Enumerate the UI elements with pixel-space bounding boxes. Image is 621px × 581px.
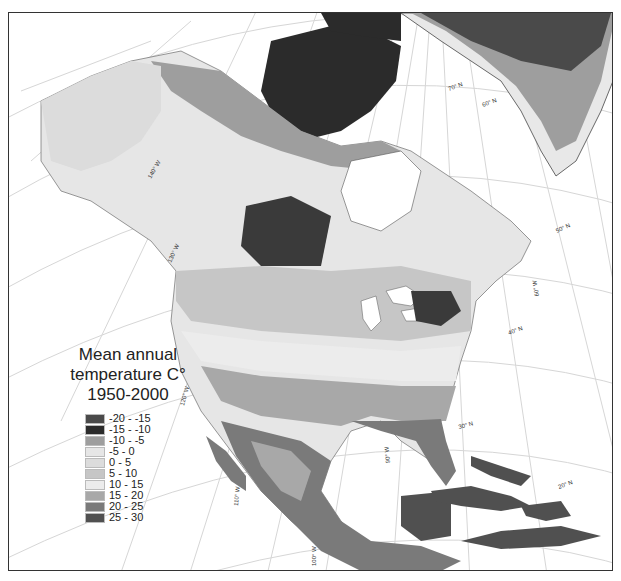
label-110w: 110° W xyxy=(233,486,241,506)
caribbean-islands xyxy=(431,456,601,549)
label-100w: 100° W xyxy=(311,546,317,566)
legend-swatch xyxy=(85,491,105,501)
legend-items: -20 - -15 -15 - -10 -10 - -5 -5 - 0 0 - … xyxy=(85,413,193,523)
legend-swatch xyxy=(85,436,105,446)
legend-label: 25 - 30 xyxy=(109,512,143,523)
label-30n: 30° N xyxy=(458,420,474,430)
legend-title: Mean annual temperature C° 1950-2000 xyxy=(63,345,193,405)
greenland xyxy=(401,13,613,176)
legend-swatch xyxy=(85,480,105,490)
legend-swatch xyxy=(85,513,105,523)
label-90w: 90° W xyxy=(384,446,391,463)
label-50n: 50° N xyxy=(555,222,571,234)
label-20n: 20° N xyxy=(557,479,573,490)
legend-swatch xyxy=(85,414,105,424)
legend-item: -10 - -5 xyxy=(85,435,193,446)
label-60w: 60° W xyxy=(531,279,540,297)
legend-swatch xyxy=(85,458,105,468)
label-60n: 60° N xyxy=(481,97,497,108)
legend-item: -5 - 0 xyxy=(85,446,193,457)
legend-swatch xyxy=(85,425,105,435)
legend-item: 25 - 30 xyxy=(85,512,193,523)
legend: Mean annual temperature C° 1950-2000 -20… xyxy=(63,345,193,523)
map-frame: 70° N 60° N 50° N 40° N 30° N 20° N 140°… xyxy=(8,12,613,571)
legend-swatch xyxy=(85,447,105,457)
legend-title-line3: 1950-2000 xyxy=(63,385,193,405)
legend-swatch xyxy=(85,502,105,512)
legend-swatch xyxy=(85,469,105,479)
legend-title-line1: Mean annual xyxy=(63,345,193,365)
label-70n: 70° N xyxy=(447,81,463,92)
legend-item: 0 - 5 xyxy=(85,457,193,468)
legend-title-line2: temperature C° xyxy=(63,365,193,385)
